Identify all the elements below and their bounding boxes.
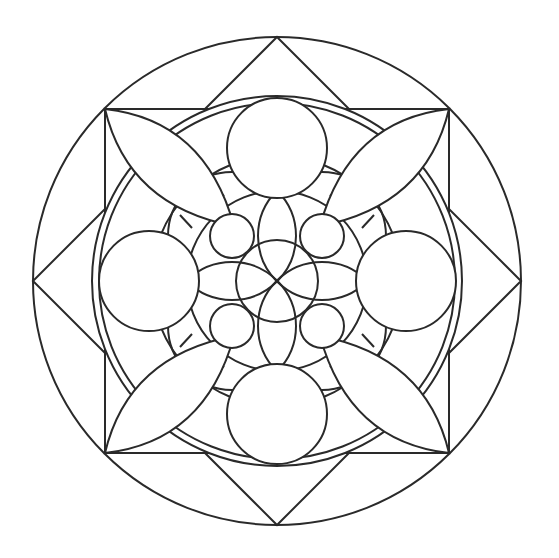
small-circle-top-right xyxy=(300,214,344,258)
big-circle-top xyxy=(227,98,327,198)
mandala-drawing xyxy=(0,0,559,558)
mandala-canvas xyxy=(0,0,559,558)
big-circle-left xyxy=(99,231,199,331)
small-circle-bottom-right xyxy=(300,304,344,348)
small-circle-top-left xyxy=(210,214,254,258)
big-circle-bottom xyxy=(227,364,327,464)
small-circle-bottom-left xyxy=(210,304,254,348)
big-circle-right xyxy=(356,231,456,331)
